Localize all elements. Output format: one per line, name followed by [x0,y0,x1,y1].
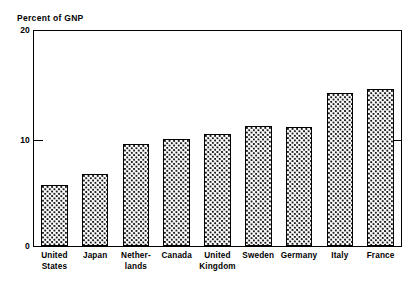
y-axis-title: Percent of GNP [17,13,84,23]
x-axis-tick-label: France [360,251,401,262]
bar [163,139,190,247]
y-tick-label-20: 20 [8,25,30,35]
bar [286,127,313,246]
y-tick-label-0: 0 [8,241,30,251]
x-axis-tick-label: United States [34,251,75,272]
bar [204,134,231,246]
x-axis-tick-label: Nether- lands [116,251,157,272]
x-axis-tick-label: Japan [75,251,116,262]
bar [245,126,272,246]
bar [123,144,150,246]
x-axis-tick-label: United Kingdom [197,251,238,272]
y-tick-label-10: 10 [8,135,30,145]
bar-chart: Percent of GNP 20 10 0 United StatesJapa… [0,0,414,292]
bar [327,93,354,246]
bar [41,185,68,246]
x-axis-tick-label: Italy [319,251,360,262]
bars-layer [34,31,401,246]
bar [367,89,394,246]
bar [82,174,109,246]
x-axis-tick-label: Germany [279,251,320,262]
x-axis-tick-label: Sweden [238,251,279,262]
x-axis-tick-label: Canada [156,251,197,262]
